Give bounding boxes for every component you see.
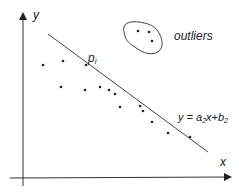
data-point — [99, 86, 102, 89]
data-point — [151, 121, 154, 124]
data-point — [62, 60, 65, 63]
point-label-pi: pi — [87, 51, 97, 66]
data-point — [85, 64, 88, 67]
data-point — [60, 86, 63, 89]
x-axis-label: x — [219, 155, 227, 169]
data-point — [167, 132, 170, 135]
data-point — [84, 89, 87, 92]
outlier-point — [151, 40, 154, 43]
regression-diagram: y x y = a2x+b2 pi outliers — [0, 0, 239, 192]
outlier-points — [137, 30, 154, 43]
data-point — [42, 64, 45, 67]
outliers-label: outliers — [174, 29, 213, 43]
data-point — [139, 105, 142, 108]
outlier-point — [148, 31, 151, 34]
regression-line — [48, 34, 208, 152]
data-points — [42, 60, 192, 139]
y-axis-label: y — [32, 8, 40, 22]
outlier-point — [137, 30, 140, 33]
data-point — [142, 110, 145, 113]
outlier-boundary — [124, 22, 163, 54]
data-point — [189, 136, 192, 139]
data-point — [108, 89, 111, 92]
data-point — [119, 106, 122, 109]
data-point — [114, 93, 117, 96]
line-equation: y = a2x+b2 — [177, 111, 228, 124]
x-axis — [10, 177, 230, 178]
